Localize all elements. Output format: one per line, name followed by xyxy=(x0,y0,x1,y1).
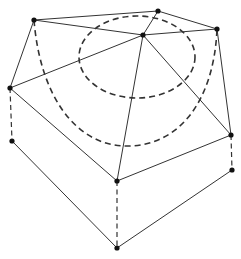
edge-H-I xyxy=(231,135,232,170)
node-I xyxy=(229,167,234,172)
edge-A-C xyxy=(34,20,143,35)
edge-F-J xyxy=(12,141,117,248)
edge-C-G xyxy=(117,35,143,181)
node-J xyxy=(114,245,119,250)
nodes xyxy=(7,8,234,250)
solid-edges xyxy=(10,11,232,248)
edge-E-F xyxy=(10,88,12,141)
edge-B-C xyxy=(143,11,158,35)
edge-A-E xyxy=(10,20,34,88)
node-G xyxy=(114,178,119,183)
node-D xyxy=(214,26,219,31)
edge-C-H xyxy=(143,35,231,135)
edge-B-D xyxy=(158,11,217,29)
node-C xyxy=(140,32,145,37)
edge-J-I xyxy=(117,170,232,248)
edge-E-C xyxy=(10,35,143,88)
node-H xyxy=(228,132,233,137)
dashed-edges xyxy=(10,88,232,248)
node-E xyxy=(7,85,12,90)
node-A xyxy=(31,17,36,22)
node-B xyxy=(155,8,160,13)
node-F xyxy=(9,138,14,143)
wireframe-diagram xyxy=(0,0,241,259)
edge-A-B xyxy=(34,11,158,20)
edge-G-H xyxy=(117,135,231,181)
edge-E-G xyxy=(10,88,117,181)
edge-D-H xyxy=(217,29,231,135)
